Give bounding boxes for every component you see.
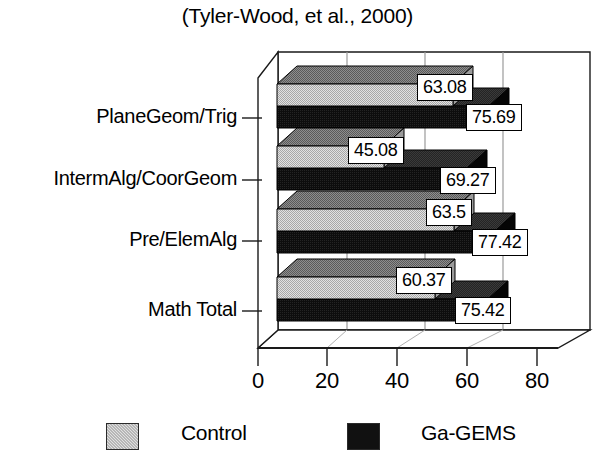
- data-label-gagems-planegeom: 75.69: [466, 104, 522, 131]
- tick-label-20: 20: [297, 368, 357, 394]
- plot-left-wall: [258, 52, 278, 348]
- plot-floor: [258, 330, 590, 348]
- data-label-gagems-mathtotal: 75.42: [455, 297, 511, 324]
- tick-label-0: 0: [228, 368, 288, 394]
- legend-swatch-control: [106, 423, 139, 450]
- legend-swatch-gagems: [347, 423, 380, 450]
- category-label-math-total: Math Total: [148, 298, 237, 321]
- data-label-gagems-intermalg: 69.27: [440, 167, 496, 194]
- category-label-pre-elemalg: Pre/ElemAlg: [129, 228, 237, 251]
- category-label-intermalg-coorgeom: IntermAlg/CoorGeom: [53, 167, 237, 190]
- tick-label-60: 60: [437, 368, 497, 394]
- legend-label-gagems: Ga-GEMS: [421, 421, 516, 445]
- chart-container: (Tyler-Wood, et al., 2000): [0, 0, 595, 454]
- data-label-control-preelemalg: 63.5: [426, 199, 472, 226]
- data-label-control-intermalg: 45.08: [348, 137, 404, 164]
- tick-label-40: 40: [367, 368, 427, 394]
- data-label-control-planegeom: 63.08: [417, 74, 473, 101]
- tick-label-80: 80: [507, 368, 567, 394]
- legend-label-control: Control: [181, 421, 247, 445]
- data-label-control-mathtotal: 60.37: [396, 267, 452, 294]
- value-axis: [258, 348, 558, 366]
- category-label-planegeom-trig: PlaneGeom/Trig: [96, 105, 237, 128]
- data-label-gagems-preelemalg: 77.42: [472, 229, 528, 256]
